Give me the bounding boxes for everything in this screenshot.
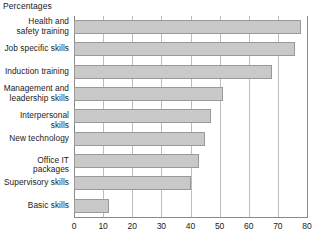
x-tick-label-10: 10 xyxy=(98,221,107,232)
bar-6 xyxy=(74,154,199,168)
category-label-line: New technology xyxy=(0,134,69,144)
x-tick-label-80: 80 xyxy=(302,221,311,232)
bar-2 xyxy=(74,65,272,79)
bar-row xyxy=(74,38,307,60)
chart-subtitle: Percentages xyxy=(3,1,52,12)
bar-row xyxy=(74,83,307,105)
category-label-6: Office IT packages xyxy=(0,156,69,175)
category-label-line: Basic skills xyxy=(0,201,69,211)
category-label-line: Interpersonal skills xyxy=(0,111,69,130)
plot-area xyxy=(74,16,307,217)
bar-row xyxy=(74,172,307,194)
bar-row xyxy=(74,105,307,127)
category-label-line: Job specific skills xyxy=(0,44,69,54)
category-label-line: Induction training xyxy=(0,67,69,77)
bar-row xyxy=(74,195,307,217)
category-label-0: Health andsafety training xyxy=(0,17,69,36)
category-label-7: Supervisory skills xyxy=(0,178,69,188)
x-tick-label-40: 40 xyxy=(186,221,195,232)
bar-4 xyxy=(74,109,211,123)
bar-8 xyxy=(74,199,109,213)
x-tick-label-20: 20 xyxy=(128,221,137,232)
gridline-80 xyxy=(307,16,308,217)
category-label-4: Interpersonal skills xyxy=(0,111,69,130)
x-tick-label-60: 60 xyxy=(244,221,253,232)
bar-3 xyxy=(74,87,223,101)
x-tick-label-70: 70 xyxy=(273,221,282,232)
category-label-5: New technology xyxy=(0,134,69,144)
category-label-line: Office IT packages xyxy=(0,156,69,175)
bar-row xyxy=(74,150,307,172)
bar-7 xyxy=(74,176,191,190)
category-label-line: leadership skills xyxy=(0,94,69,104)
bar-row xyxy=(74,128,307,150)
category-label-1: Job specific skills xyxy=(0,44,69,54)
bar-0 xyxy=(74,20,301,34)
category-label-2: Induction training xyxy=(0,67,69,77)
bar-row xyxy=(74,61,307,83)
category-label-line: safety training xyxy=(0,27,69,37)
category-label-line: Supervisory skills xyxy=(0,178,69,188)
bar-row xyxy=(74,16,307,38)
x-tick-label-50: 50 xyxy=(215,221,224,232)
bar-chart: Percentages Health andsafety trainingJob… xyxy=(0,0,325,249)
bar-5 xyxy=(74,132,205,146)
x-axis-line xyxy=(74,217,308,218)
category-label-3: Management andleadership skills xyxy=(0,84,69,103)
x-tick-label-0: 0 xyxy=(72,221,77,232)
x-tick-label-30: 30 xyxy=(157,221,166,232)
category-label-8: Basic skills xyxy=(0,201,69,211)
bar-1 xyxy=(74,42,295,56)
